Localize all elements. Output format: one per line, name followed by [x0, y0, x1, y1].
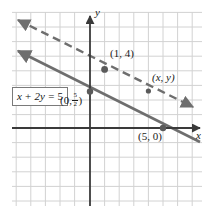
- fraction-five-halves: 5 2: [72, 92, 78, 108]
- fraction-denominator: 2: [72, 101, 78, 109]
- intercept-close-paren: ): [78, 95, 82, 106]
- point-marker-0-2.5: [87, 88, 93, 94]
- point-label-y-intercept: (0, 5 2 ): [60, 92, 82, 108]
- x-axis-label: x: [196, 130, 201, 141]
- intercept-open-paren: (0,: [60, 95, 72, 106]
- graph-canvas: [0, 0, 210, 216]
- point-marker-1-4: [101, 66, 108, 73]
- equation-term-2y: 2y: [34, 90, 45, 102]
- equation-plus: +: [22, 90, 34, 102]
- y-axis-label: y: [95, 7, 100, 18]
- point-label-generic-xy: (x, y): [152, 72, 175, 83]
- fraction-numerator: 5: [72, 92, 78, 100]
- equation-equals: =: [45, 90, 57, 102]
- point-label-5-0: (5, 0): [138, 131, 162, 142]
- grid-lines: [12, 12, 202, 206]
- point-label-1-4: (1, 4): [110, 48, 134, 59]
- point-marker-x-y: [146, 88, 151, 93]
- coordinate-graph-figure: x + 2y = 5 (1, 4) (x, y) (5, 0) (0, 5 2 …: [0, 0, 210, 216]
